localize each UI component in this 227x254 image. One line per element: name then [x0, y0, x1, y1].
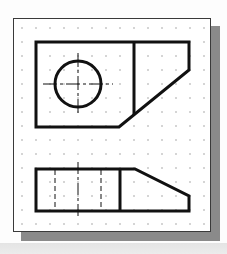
grid-dot	[161, 83, 162, 84]
drawing-svg	[0, 0, 227, 254]
grid-dot	[203, 41, 204, 42]
grid-dot	[63, 195, 64, 196]
grid-dot	[77, 181, 78, 182]
grid-dot	[203, 83, 204, 84]
grid-dot	[119, 153, 120, 154]
grid-dot	[175, 223, 176, 224]
grid-dot	[161, 27, 162, 28]
grid-dot	[189, 27, 190, 28]
grid-dot	[35, 27, 36, 28]
grid-dot	[91, 55, 92, 56]
grid-dot	[119, 139, 120, 140]
grid-dot	[77, 139, 78, 140]
grid-dot	[203, 69, 204, 70]
grid-dot	[63, 83, 64, 84]
grid-dot	[105, 181, 106, 182]
grid-dot	[203, 97, 204, 98]
grid-dot	[175, 111, 176, 112]
grid-dot	[133, 195, 134, 196]
grid-dot	[21, 41, 22, 42]
grid-dot	[91, 97, 92, 98]
grid-dot	[119, 97, 120, 98]
grid-dot	[203, 111, 204, 112]
grid-dot	[189, 167, 190, 168]
grid-dot	[49, 27, 50, 28]
grid-dot	[63, 55, 64, 56]
grid-dot	[161, 69, 162, 70]
grid-dot	[49, 195, 50, 196]
grid-dot	[63, 153, 64, 154]
grid-dot	[63, 223, 64, 224]
grid-dot	[49, 69, 50, 70]
grid-dot	[21, 55, 22, 56]
grid-dot	[91, 153, 92, 154]
grid-dot	[77, 97, 78, 98]
grid-dot	[147, 97, 148, 98]
grid-dot	[77, 195, 78, 196]
grid-dot	[91, 139, 92, 140]
grid-dot	[175, 167, 176, 168]
grid-dot	[175, 55, 176, 56]
grid-dot	[63, 181, 64, 182]
grid-dot	[161, 153, 162, 154]
grid-dot	[91, 181, 92, 182]
grid-dot	[147, 55, 148, 56]
grid-dot	[203, 139, 204, 140]
grid-dot	[91, 195, 92, 196]
grid-dot	[147, 223, 148, 224]
grid-dot	[147, 181, 148, 182]
front-view	[36, 162, 189, 218]
grid-dot	[175, 27, 176, 28]
grid-dot	[147, 69, 148, 70]
grid-dot	[105, 27, 106, 28]
grid-dot	[21, 111, 22, 112]
grid-dot	[119, 55, 120, 56]
grid-dot	[147, 125, 148, 126]
grid-dot	[203, 153, 204, 154]
grid-dot	[21, 83, 22, 84]
grid-dot	[203, 125, 204, 126]
grid-dot	[175, 153, 176, 154]
grid-dot	[21, 69, 22, 70]
grid-dot	[189, 97, 190, 98]
grid-dot	[21, 181, 22, 182]
grid-dot	[189, 223, 190, 224]
grid-dot	[161, 139, 162, 140]
grid-dot	[133, 27, 134, 28]
grid-dot	[119, 69, 120, 70]
grid-dot	[49, 223, 50, 224]
grid-dot	[91, 27, 92, 28]
grid-dot	[203, 55, 204, 56]
grid-dot	[21, 139, 22, 140]
grid-dot	[63, 97, 64, 98]
grid-dot	[133, 125, 134, 126]
grid-dot	[21, 97, 22, 98]
grid-dot	[161, 111, 162, 112]
grid-dot	[203, 209, 204, 210]
grid-dot	[175, 83, 176, 84]
grid-dot	[49, 111, 50, 112]
grid-dot	[35, 223, 36, 224]
grid-dot	[21, 27, 22, 28]
grid-dot	[203, 167, 204, 168]
top-view	[36, 42, 189, 127]
grid-dot	[147, 111, 148, 112]
grid-dot	[175, 97, 176, 98]
grid-dot	[49, 139, 50, 140]
grid-dot	[203, 181, 204, 182]
grid-dot	[49, 97, 50, 98]
grid-dot	[133, 153, 134, 154]
grid-dot	[105, 139, 106, 140]
grid-dot	[105, 97, 106, 98]
grid-dot	[175, 125, 176, 126]
grid-dot	[189, 83, 190, 84]
grid-dot	[49, 153, 50, 154]
grid-dot	[161, 97, 162, 98]
grid-dot	[49, 181, 50, 182]
grid-dot	[21, 223, 22, 224]
grid-dot	[161, 223, 162, 224]
grid-dot	[189, 139, 190, 140]
grid-dot	[133, 181, 134, 182]
grid-dot	[203, 195, 204, 196]
grid-dot	[119, 83, 120, 84]
